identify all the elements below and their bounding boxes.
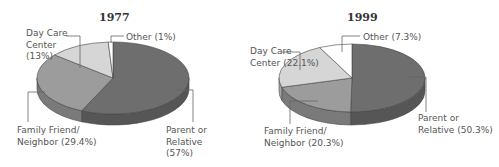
chart-title-1977: 1977 (99, 11, 130, 24)
pie-chart-1999: 1999 Day Care Center (22.1%) Other (7.3%… (250, 0, 499, 167)
label-parent-1977: Parent or Relative (57%) (166, 125, 207, 160)
label-family-1977: Family Friend/ Neighbor (29.4%) (17, 125, 97, 148)
label-day-care-1977: Day Care Center (13%) (26, 28, 67, 63)
chart-title-1999: 1999 (347, 11, 378, 24)
label-other-1977: Other (1%) (126, 32, 176, 44)
label-parent-1999: Parent or Relative (50.3%) (418, 113, 493, 136)
label-family-1999: Family Friend/ Neighbor (20.3%) (264, 126, 344, 149)
pie-chart-1977: 1977 Day Care Center (13%) Other (1%) Fa… (0, 0, 250, 167)
label-day-care-1999: Day Care Center (22.1%) (250, 46, 319, 69)
label-other-1999: Other (7.3%) (363, 32, 421, 44)
